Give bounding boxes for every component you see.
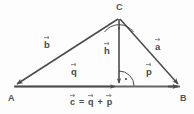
equation-term1: q (88, 98, 94, 107)
vertex-label-b: B (180, 94, 187, 103)
vector-label-h: h (104, 46, 110, 56)
vector-label-p: p (146, 67, 152, 77)
right-angle-dot-at-h (125, 78, 127, 80)
vector-b-line (17, 19, 118, 84)
right-angle-dot-at-c (118, 27, 120, 29)
vector-q-letter: q (71, 67, 77, 77)
vertex-label-a: A (8, 94, 15, 103)
vector-label-b: b (44, 40, 50, 50)
vector-triangle-figure: A B C b a h q (0, 0, 194, 114)
equation-term2: p (107, 98, 113, 107)
equation-equals: = (78, 98, 85, 107)
figure-canvas (0, 0, 194, 114)
vector-p-letter: p (146, 67, 152, 77)
vertex-label-c: C (116, 3, 123, 12)
vector-h-letter: h (104, 46, 110, 56)
vector-label-a: a (155, 42, 160, 52)
vector-sum-equation: c = q + p (70, 98, 112, 107)
vector-b-letter: b (44, 40, 50, 50)
vector-a-letter: a (155, 42, 160, 52)
equation-plus: + (97, 98, 104, 107)
equation-lhs: c (70, 98, 75, 107)
vector-label-q: q (71, 67, 77, 77)
